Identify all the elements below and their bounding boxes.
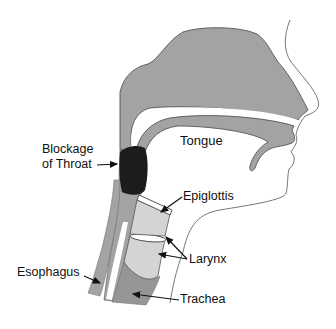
label-larynx: Larynx [189, 252, 227, 266]
label-trachea: Trachea [180, 292, 225, 306]
label-blockage-line2: of Throat [42, 157, 92, 171]
blockage-arrow [97, 164, 117, 165]
label-esophagus: Esophagus [17, 265, 80, 279]
label-epiglottis: Epiglottis [183, 189, 234, 203]
throat-anatomy-diagram: Tongue Blockage of Throat Epiglottis Lar… [0, 0, 336, 329]
label-tongue: Tongue [180, 133, 223, 148]
label-blockage-line1: Blockage [42, 142, 93, 156]
throat-blockage [119, 146, 147, 195]
